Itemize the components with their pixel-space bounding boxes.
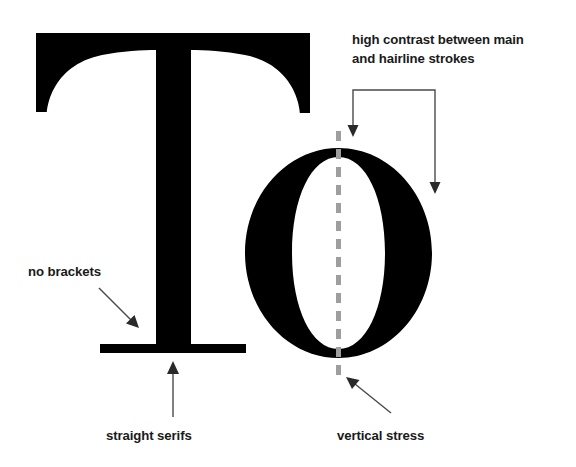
- annotation-vertical-stress: vertical stress: [337, 377, 424, 443]
- vertical-stress-leader-line: [355, 384, 391, 413]
- high-contrast-arrowhead-right: [430, 182, 441, 194]
- no-brackets-label: no brackets: [28, 264, 101, 279]
- high-contrast-label-line2: and hairline strokes: [352, 51, 475, 66]
- annotation-straight-serifs: straight serifs: [106, 361, 192, 443]
- straight-serifs-label: straight serifs: [106, 428, 192, 443]
- high-contrast-label-line1: high contrast between main: [352, 32, 524, 47]
- high-contrast-arrowhead-left: [348, 125, 359, 137]
- no-brackets-leader-line: [99, 288, 131, 320]
- diagram-canvas: high contrast between main and hairline …: [0, 0, 576, 467]
- o-bowl: [245, 148, 432, 358]
- vertical-stress-arrowhead: [346, 377, 360, 389]
- straight-serifs-arrowhead: [167, 361, 179, 374]
- glyph-lowercase-o: [245, 148, 432, 358]
- typography-anatomy-diagram: high contrast between main and hairline …: [0, 0, 576, 467]
- vertical-stress-label: vertical stress: [337, 428, 424, 443]
- t-stem: [156, 330, 191, 346]
- annotation-no-brackets: no brackets: [28, 264, 139, 328]
